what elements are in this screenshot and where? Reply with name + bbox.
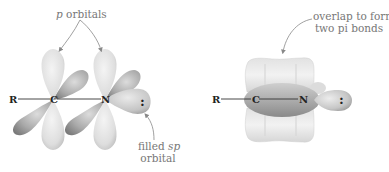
overlap-label: overlap to form two pi bonds bbox=[313, 10, 385, 34]
nitrile-orbital-diagram: p orbitals R C N : filled sp orbital ove… bbox=[0, 0, 389, 172]
right-atom-r: R bbox=[212, 95, 220, 105]
p-orbitals-label: p orbitals bbox=[56, 8, 107, 20]
overlap-label-line1: overlap to form bbox=[313, 10, 385, 22]
sp-orbital-arrow bbox=[146, 115, 154, 140]
p-orbitals-arrow-right bbox=[80, 20, 101, 50]
overlap-label-line2: two pi bonds bbox=[313, 22, 385, 34]
right-lone-pair: : bbox=[339, 95, 344, 105]
right-atom-c: C bbox=[252, 95, 260, 105]
filled-sp-line1: filled sp bbox=[138, 140, 178, 152]
left-atom-n: N bbox=[101, 95, 110, 105]
filled-sp-line2: orbital bbox=[138, 152, 178, 164]
left-atom-c: C bbox=[50, 95, 58, 105]
left-lone-pair: : bbox=[140, 97, 145, 107]
p-orbitals-label-text: orbitals bbox=[63, 8, 107, 20]
right-atom-n: N bbox=[299, 95, 308, 105]
left-atom-r: R bbox=[9, 95, 17, 105]
p-orbitals-arrow-left bbox=[60, 20, 80, 50]
filled-sp-orbital-label: filled sp orbital bbox=[138, 140, 178, 164]
overlap-arrow bbox=[283, 19, 312, 52]
p-orbitals-label-italic: p bbox=[56, 8, 63, 20]
